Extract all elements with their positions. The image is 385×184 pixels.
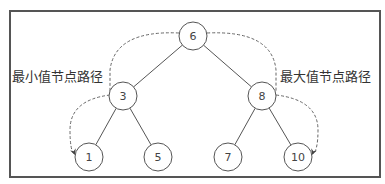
max-path-label: 最大值节点路径 — [280, 69, 371, 84]
bst-diagram: 63815710 最小值节点路径 最大值节点路径 — [0, 0, 385, 184]
tree-node-3: 3 — [109, 82, 137, 110]
node-label: 1 — [86, 151, 93, 164]
tree-node-5: 5 — [144, 143, 172, 171]
tree-node-7: 7 — [214, 143, 242, 171]
tree-node-1: 1 — [75, 143, 103, 171]
tree-node-10: 10 — [284, 143, 312, 171]
node-label: 5 — [155, 151, 162, 164]
node-label: 3 — [120, 90, 127, 103]
node-label: 6 — [190, 30, 197, 43]
node-label: 10 — [291, 151, 305, 164]
tree-node-6: 6 — [179, 22, 207, 50]
node-label: 8 — [259, 90, 266, 103]
tree-node-8: 8 — [248, 82, 276, 110]
min-path-label: 最小值节点路径 — [12, 69, 103, 84]
node-label: 7 — [225, 151, 232, 164]
